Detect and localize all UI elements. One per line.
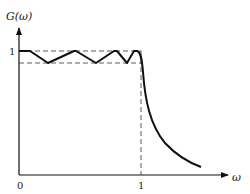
filter-response-diagram: G(ω) 1 0 1 ω (0, 0, 250, 194)
y-axis-label: G(ω) (6, 10, 32, 23)
x-axis-label: ω (232, 171, 241, 184)
y-tick-label-1: 1 (9, 46, 15, 57)
x-tick-label-0: 0 (17, 180, 23, 191)
x-tick-label-1: 1 (138, 180, 144, 191)
response-curve (19, 51, 201, 167)
